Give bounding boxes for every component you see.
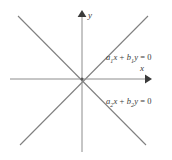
- y-axis-label: y: [88, 11, 92, 20]
- x-axis-label: x: [140, 64, 144, 73]
- eq1-equals-zero: = 0: [138, 52, 152, 62]
- two-lines-through-origin-figure: y x a1x + b1y = 0 a2x + b2y = 0: [0, 0, 172, 160]
- eq1-plus-operator: +: [117, 52, 126, 62]
- figure-canvas: [0, 0, 172, 160]
- eq2-equals-zero: = 0: [138, 96, 152, 106]
- y-axis-arrowhead-icon: [78, 10, 87, 17]
- x-axis-arrowhead-icon: [145, 75, 152, 84]
- origin-point: [81, 78, 84, 81]
- eq2-plus-operator: +: [117, 96, 126, 106]
- line-2-equation-label: a2x + b2y = 0: [106, 97, 152, 106]
- line-1-equation-label: a1x + b1y = 0: [106, 53, 152, 62]
- line-positive-slope: [20, 16, 148, 145]
